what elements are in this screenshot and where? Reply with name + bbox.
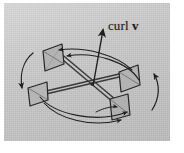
rotation-arc-right-side	[152, 74, 158, 110]
curl-label-vector: v	[132, 18, 139, 33]
rotation-arc-bottom-outer	[44, 103, 121, 123]
rotation-arc-top-outer	[59, 49, 132, 70]
curl-label-word: curl	[108, 18, 129, 33]
curl-vector-label: curl v	[108, 19, 139, 32]
paddle-vane-upper-left	[43, 44, 64, 71]
rotation-arc-left-side	[21, 53, 33, 88]
figure-root: curl v	[0, 0, 184, 153]
paddle-wheel-diagram	[0, 0, 184, 153]
